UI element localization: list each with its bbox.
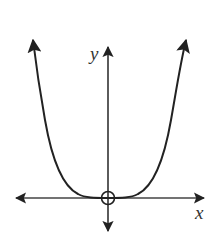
curve-right-branch: [108, 40, 186, 198]
y-axis-label: y: [90, 44, 98, 63]
x-axis-label: x: [195, 203, 203, 222]
polynomial-graph: [0, 0, 215, 235]
